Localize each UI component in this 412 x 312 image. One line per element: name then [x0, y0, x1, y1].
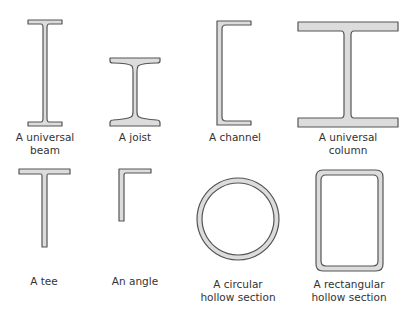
label-joist: A joist: [119, 131, 151, 144]
tee-shape: [19, 169, 70, 247]
label-line: A channel: [209, 131, 261, 144]
joist-shape: [110, 58, 160, 126]
label-channel: A channel: [209, 131, 261, 144]
label-line: A rectangular: [311, 278, 386, 291]
label-line: A joist: [119, 131, 151, 144]
label-line: hollow section: [311, 291, 386, 304]
label-line: A universal: [319, 131, 378, 144]
label-universal-column: A universal column: [319, 131, 378, 157]
circular-hollow-section-shape: [197, 178, 279, 260]
universal-beam-shape: [28, 20, 62, 126]
rectangular-hollow-section-shape: [316, 170, 383, 271]
label-universal-beam: A universal beam: [16, 131, 75, 157]
label-line: hollow section: [200, 291, 275, 304]
label-line: An angle: [112, 275, 158, 288]
label-angle: An angle: [112, 275, 158, 288]
label-line: A circular: [200, 278, 275, 291]
universal-column-shape: [298, 22, 398, 127]
angle-shape: [119, 169, 151, 221]
label-line: A universal: [16, 131, 75, 144]
label-line: column: [319, 144, 378, 157]
label-circular-hollow-section: A circular hollow section: [200, 278, 275, 304]
label-line: beam: [16, 144, 75, 157]
channel-shape: [217, 21, 251, 125]
label-line: A tee: [30, 275, 58, 288]
label-tee: A tee: [30, 275, 58, 288]
label-rectangular-hollow-section: A rectangular hollow section: [311, 278, 386, 304]
